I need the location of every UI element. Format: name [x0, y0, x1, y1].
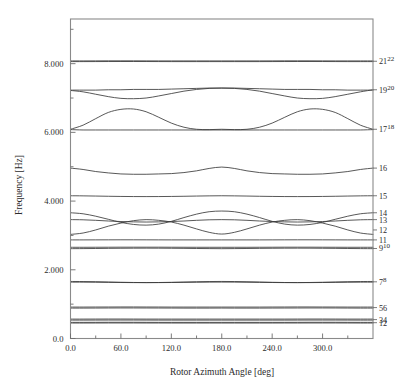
mode-label-13: 13 [379, 216, 387, 225]
x-tick-label: 240.0 [262, 343, 281, 353]
y-tick-label: 0.0 [53, 334, 64, 344]
x-tick-label: 180.0 [212, 343, 231, 353]
x-tick-label: 300.0 [313, 343, 332, 353]
mode-label-sup-8: 8 [383, 276, 387, 284]
mode-label-56: 56 [379, 304, 387, 313]
mode-label-15: 15 [379, 192, 387, 201]
mode-label-sup-22: 22 [387, 55, 395, 63]
mode-label-sup-20: 20 [387, 84, 395, 92]
chart-svg: 0.060.0120.0180.0240.0300.0 0.02.0004.00… [0, 0, 418, 387]
x-tick-label: 60.0 [113, 343, 128, 353]
x-tick-label: 120.0 [162, 343, 181, 353]
mode-label-sup-10: 10 [383, 242, 391, 250]
y-axis-title: Frequency [Hz] [14, 155, 24, 215]
mode-label-sup-18: 18 [387, 123, 395, 131]
mode-label-16: 16 [379, 164, 387, 173]
y-tick-label: 2.000 [44, 265, 63, 275]
mode-label-12: 12 [379, 319, 387, 328]
x-tick-label: 0.0 [65, 343, 76, 353]
frequency-azimuth-chart: 0.060.0120.0180.0240.0300.0 0.02.0004.00… [0, 0, 418, 387]
y-tick-label: 8.000 [44, 59, 63, 69]
x-axis-title: Rotor Azimuth Angle [deg] [170, 367, 274, 377]
y-tick-label: 6.000 [44, 127, 63, 137]
y-tick-label: 4.000 [44, 196, 63, 206]
mode-label-12: 12 [379, 226, 387, 235]
